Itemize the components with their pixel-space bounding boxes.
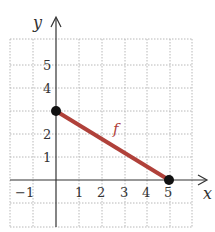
y-tick-5: 5 bbox=[43, 58, 51, 73]
axes bbox=[10, 17, 207, 227]
function-label: f bbox=[112, 120, 121, 138]
x-axis-label: x bbox=[203, 184, 212, 203]
x-tick-1: 1 bbox=[75, 185, 83, 200]
x-tick-2: 2 bbox=[97, 185, 105, 200]
x-tick-5: 5 bbox=[164, 185, 172, 200]
x-tick-3: 3 bbox=[120, 185, 128, 200]
y-tick-2: 2 bbox=[43, 127, 51, 142]
x-tick-4: 4 bbox=[142, 185, 150, 200]
y-axis-label: y bbox=[32, 13, 43, 32]
y-tick-1: 1 bbox=[43, 150, 51, 165]
endpoint-0-3 bbox=[51, 106, 61, 116]
y-tick-4: 4 bbox=[43, 81, 51, 96]
x-tick-minus1: −1 bbox=[15, 185, 34, 200]
function-graph: y x f −1 1 2 3 4 5 1 2 4 5 bbox=[0, 0, 215, 232]
endpoint-5-0 bbox=[164, 175, 174, 185]
